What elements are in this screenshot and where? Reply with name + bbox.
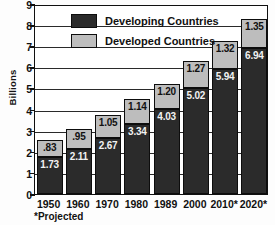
bar-value-developing: 6.94 xyxy=(241,50,267,61)
bar-value-developed: 1.35 xyxy=(241,21,267,32)
bar-value-developed: 1.27 xyxy=(183,63,209,74)
x-axis-tick-1970: 1970 xyxy=(91,198,124,210)
bar-value-developing: 5.94 xyxy=(212,71,238,82)
x-axis-tick-1950: 1950 xyxy=(32,198,65,210)
x-axis-tick-2000: 2000 xyxy=(178,198,211,210)
bar-1950[interactable]: 1.73.83 xyxy=(37,140,63,194)
bar-value-developed: .95 xyxy=(66,131,92,142)
x-axis-tick-2010: 2010* xyxy=(208,198,241,210)
bar-value-developed: .83 xyxy=(37,142,63,153)
y-axis-title: Billions xyxy=(7,58,18,118)
bar-1989[interactable]: 4.031.20 xyxy=(154,84,180,194)
bar-value-developed: 1.20 xyxy=(154,86,180,97)
legend-item-developing: Developing Countries xyxy=(71,13,231,31)
bar-2000[interactable]: 5.021.27 xyxy=(183,61,209,194)
plot-area: 1.73.832.11.952.671.053.341.144.031.205.… xyxy=(34,5,268,195)
legend-swatch-developing xyxy=(71,14,97,28)
bar-1980[interactable]: 3.341.14 xyxy=(124,99,150,194)
bar-value-developed: 1.05 xyxy=(95,117,121,128)
legend-label-developing: Developing Countries xyxy=(105,15,219,27)
bar-1970[interactable]: 2.671.05 xyxy=(95,115,121,194)
bar-value-developing: 1.73 xyxy=(37,159,63,170)
bar-segment-developing[interactable] xyxy=(241,48,267,195)
bar-value-developing: 2.67 xyxy=(95,140,121,151)
bar-value-developing: 5.02 xyxy=(183,90,209,101)
chart-footnote: *Projected xyxy=(34,211,83,222)
chart-figure: Billions 9876543210 1.73.832.11.952.671.… xyxy=(0,0,275,225)
legend: Developing Countries Developed Countries xyxy=(71,13,231,53)
bar-2010[interactable]: 5.941.32 xyxy=(212,41,238,194)
x-axis-tick-1989: 1989 xyxy=(149,198,182,210)
legend-item-developed: Developed Countries xyxy=(71,33,231,51)
legend-label-developed: Developed Countries xyxy=(105,35,215,47)
x-axis-tick-1960: 1960 xyxy=(61,198,94,210)
bar-1960[interactable]: 2.11.95 xyxy=(66,129,92,194)
x-axis-tick-2020: 2020* xyxy=(237,198,270,210)
bar-segment-developing[interactable] xyxy=(183,88,209,194)
bar-value-developed: 1.14 xyxy=(124,101,150,112)
bar-value-developing: 4.03 xyxy=(154,111,180,122)
bar-value-developing: 2.11 xyxy=(66,151,92,162)
x-axis-tick-1980: 1980 xyxy=(120,198,153,210)
legend-swatch-developed xyxy=(71,34,97,48)
bar-value-developing: 3.34 xyxy=(124,126,150,137)
bar-segment-developing[interactable] xyxy=(212,69,238,194)
bar-2020[interactable]: 6.941.35 xyxy=(241,19,267,194)
